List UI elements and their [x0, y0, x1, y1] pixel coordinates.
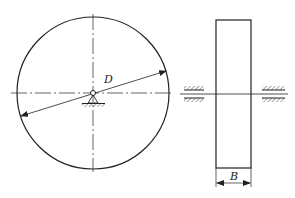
diagram-canvas	[0, 0, 295, 198]
side-view	[180, 20, 288, 187]
width-label: B	[230, 170, 238, 183]
diameter-label: D	[104, 73, 113, 86]
front-view	[11, 14, 174, 172]
